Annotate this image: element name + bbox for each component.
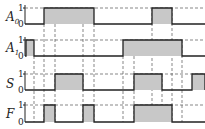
- waveform: [25, 74, 205, 90]
- tick-label-low: 0: [18, 19, 24, 29]
- tick-label-low: 0: [18, 51, 24, 61]
- tick-label-high: 1: [18, 3, 24, 13]
- pulse-fill: [134, 105, 172, 122]
- tick-label-low: 0: [18, 117, 24, 127]
- pulse-fill: [192, 74, 205, 90]
- pulse-fill: [44, 8, 94, 24]
- timing-diagram: A010A110S10F10: [0, 0, 205, 129]
- signal-rows: A010A110S10F10: [5, 3, 205, 127]
- tick-label-low: 0: [18, 85, 24, 95]
- signal-label: F: [5, 107, 15, 121]
- signal-row-a1: A110: [5, 35, 205, 61]
- pulse-fill: [44, 105, 55, 122]
- signal-row-s: S10: [6, 69, 205, 95]
- signal-row-f: F10: [5, 100, 205, 127]
- pulse-fill: [123, 40, 182, 56]
- pulse-fill: [134, 74, 162, 90]
- signal-row-a0: A010: [5, 3, 205, 29]
- pulse-fill: [55, 74, 83, 90]
- pulse-fill: [152, 8, 172, 24]
- pulse-fill: [26, 40, 34, 56]
- tick-label-high: 1: [18, 69, 24, 79]
- signal-label: S: [6, 77, 14, 91]
- pulse-fill: [83, 105, 94, 122]
- tick-label-high: 1: [18, 100, 24, 110]
- tick-label-high: 1: [18, 35, 24, 45]
